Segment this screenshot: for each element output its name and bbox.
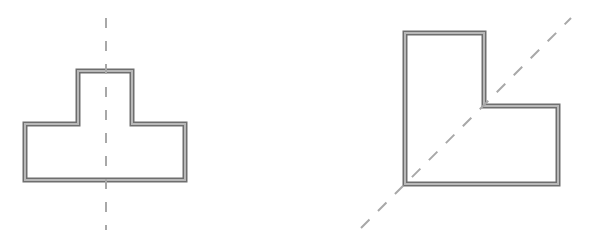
l-shape-symmetry-axis bbox=[361, 18, 571, 228]
symmetry-diagram bbox=[0, 0, 589, 245]
t-shape-group bbox=[25, 18, 185, 230]
diagram-canvas bbox=[0, 0, 589, 245]
l-shape-group bbox=[361, 18, 571, 228]
